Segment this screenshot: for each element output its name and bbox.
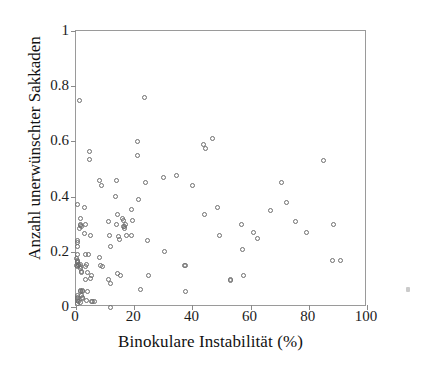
x-tick-label: 40 xyxy=(184,308,199,325)
y-tick-label: 1 xyxy=(62,22,70,39)
data-point xyxy=(174,173,179,178)
y-tick-label: 0.4 xyxy=(50,187,69,204)
data-point xyxy=(114,178,119,183)
data-point xyxy=(106,219,111,224)
x-axis-title: Binokulare Instabilität (%) xyxy=(0,332,421,352)
data-point xyxy=(338,258,343,263)
data-point xyxy=(255,236,260,241)
data-point xyxy=(88,276,93,281)
data-point xyxy=(331,222,336,227)
data-point xyxy=(99,183,104,188)
x-tick-label: 20 xyxy=(126,308,141,325)
scatter-plot-figure: 020406080100 00.20.40.60.81 Binokulare I… xyxy=(0,0,421,373)
data-point xyxy=(251,230,256,235)
data-point xyxy=(129,233,134,238)
data-point xyxy=(75,202,80,207)
data-point xyxy=(217,233,222,238)
data-point xyxy=(202,212,207,217)
y-tick-label: 0 xyxy=(62,298,70,315)
data-point xyxy=(77,98,82,103)
data-point xyxy=(88,233,93,238)
data-point xyxy=(330,258,335,263)
data-point xyxy=(293,219,298,224)
data-point xyxy=(190,183,195,188)
data-point xyxy=(82,231,87,236)
y-tick-label: 0.2 xyxy=(50,242,69,259)
x-tick-label: 80 xyxy=(300,308,315,325)
data-point xyxy=(145,238,150,243)
data-point xyxy=(108,305,113,310)
data-point xyxy=(142,95,147,100)
x-tick-label: 0 xyxy=(71,308,79,325)
data-point xyxy=(203,146,208,151)
x-tick-label: 60 xyxy=(242,308,257,325)
y-tick-mark xyxy=(71,141,76,142)
y-tick-label: 0.8 xyxy=(50,77,69,94)
page-artifact-speck xyxy=(406,287,410,292)
data-point xyxy=(228,278,233,283)
data-point xyxy=(83,264,88,269)
data-point xyxy=(78,300,83,305)
data-point xyxy=(86,252,91,257)
data-point xyxy=(83,222,88,227)
y-tick-mark xyxy=(71,31,76,32)
y-tick-mark xyxy=(71,86,76,87)
data-point xyxy=(138,287,143,292)
data-point xyxy=(75,244,80,249)
data-point xyxy=(92,299,97,304)
plot-area xyxy=(75,30,366,306)
data-point xyxy=(284,200,289,205)
data-point xyxy=(210,136,215,141)
data-point xyxy=(97,255,102,260)
data-point xyxy=(114,222,119,227)
data-point xyxy=(124,233,129,238)
y-tick-label: 0.6 xyxy=(50,132,69,149)
data-point xyxy=(129,207,134,212)
data-point xyxy=(85,289,90,294)
data-point xyxy=(100,264,105,269)
data-point xyxy=(162,249,167,254)
data-point xyxy=(107,233,112,238)
data-point xyxy=(123,222,128,227)
data-point xyxy=(146,273,151,278)
y-tick-mark xyxy=(71,197,76,198)
data-point xyxy=(87,157,92,162)
data-point xyxy=(97,178,102,183)
data-point xyxy=(241,273,246,278)
data-point xyxy=(113,194,118,199)
data-point xyxy=(108,281,113,286)
data-point xyxy=(135,153,140,158)
data-point xyxy=(118,273,123,278)
data-point xyxy=(279,180,284,185)
data-point xyxy=(130,218,135,223)
data-point xyxy=(117,237,122,242)
data-point xyxy=(304,230,309,235)
data-point xyxy=(115,212,120,217)
data-point xyxy=(268,208,273,213)
data-point xyxy=(87,149,92,154)
data-point xyxy=(79,270,84,275)
y-axis-title: Anzahl unerwünschter Sakkaden xyxy=(25,3,45,293)
data-point xyxy=(215,205,220,210)
data-point xyxy=(135,139,140,144)
data-point xyxy=(77,226,82,231)
data-point xyxy=(108,244,113,249)
x-tick-label: 100 xyxy=(355,308,378,325)
data-point xyxy=(82,205,87,210)
data-point xyxy=(183,263,188,268)
data-point xyxy=(321,158,326,163)
data-point xyxy=(136,197,141,202)
data-point xyxy=(240,247,245,252)
data-point xyxy=(161,175,166,180)
data-point xyxy=(183,289,188,294)
data-point xyxy=(143,180,148,185)
data-points-layer xyxy=(76,31,365,305)
y-tick-mark xyxy=(71,252,76,253)
data-point xyxy=(239,222,244,227)
data-point xyxy=(78,216,83,221)
